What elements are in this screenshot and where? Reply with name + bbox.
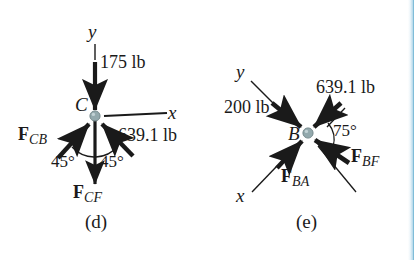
- panel-d-force-cf-subscript: CF: [84, 190, 102, 205]
- panel-e-arrow-fba: [277, 141, 302, 168]
- panel-d-force-cf-symbol: F: [73, 182, 84, 202]
- panel-d-y-axis-label: y: [88, 22, 96, 41]
- panel-d-joint-pin: [90, 111, 100, 121]
- panel-d-angle-left-label: 45°: [51, 153, 75, 170]
- panel-e-force-bf-symbol: F: [351, 146, 362, 166]
- panel-e-caption: (e): [296, 212, 317, 231]
- panel-d-caption: (d): [85, 212, 107, 231]
- panel-e-node-label: B: [288, 124, 300, 143]
- panel-e-force-ba-symbol: F: [281, 166, 292, 186]
- panel-e-x-axis-line: [252, 166, 277, 192]
- panel-e-force-ba-subscript: BA: [292, 174, 310, 189]
- panel-e-force-ba-label: FBA: [281, 167, 310, 189]
- panel-d-angle-right-label: 45°: [100, 153, 124, 170]
- panel-d-x-axis-label: x: [168, 103, 176, 122]
- panel-e-y-axis-label: y: [236, 62, 244, 81]
- panel-d-force-cf-label: FCF: [73, 183, 102, 205]
- panel-d-load-175lb-label: 175 lb: [100, 53, 146, 71]
- panel-e-joint-pin-highlight: [305, 130, 308, 133]
- panel-d-joint-pin-highlight: [92, 113, 95, 116]
- panel-e-x-axis-label: x: [236, 186, 244, 205]
- figure-root: y x 175 lb C FCB 639.1 lb 45° 45° FCF (d…: [0, 0, 414, 260]
- panel-e-force-bf-label: FBF: [351, 147, 380, 169]
- panel-d-node-label: C: [75, 95, 88, 114]
- panel-e-joint-pin: [303, 128, 313, 138]
- panel-d-force-cb-subscript: CB: [29, 132, 47, 147]
- panel-d-angle-arc-left: [72, 147, 94, 157]
- panel-d-x-axis-line: [104, 113, 167, 116]
- panel-d-force-cb-symbol: F: [18, 124, 29, 144]
- panel-e-angle-label: 75°: [333, 122, 357, 139]
- panel-e-load-200lb-label: 200 lb: [224, 98, 270, 116]
- panel-e-force-bf-subscript: BF: [362, 154, 380, 169]
- panel-e-arrow-fbf: [315, 140, 349, 163]
- panel-d-force-cb-label: FCB: [18, 125, 47, 147]
- panel-e-force-639lb-label: 639.1 lb: [316, 78, 375, 96]
- panel-d-force-639lb-label: 639.1 lb: [118, 126, 177, 144]
